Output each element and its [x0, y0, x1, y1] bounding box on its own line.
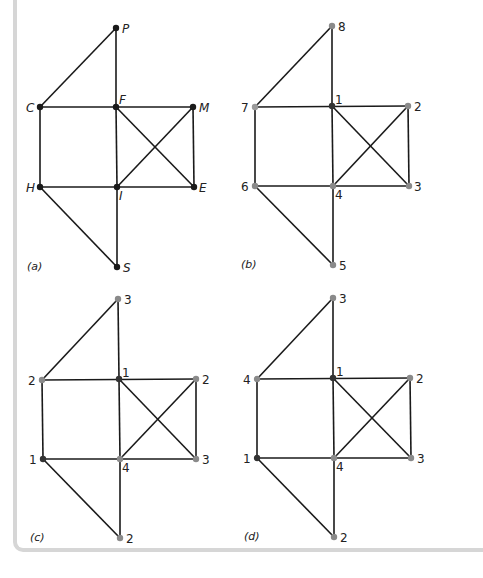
node-label: E	[199, 181, 207, 195]
panel-d: 3 4 1 2 1 4 3 2 (d)	[243, 292, 425, 545]
node-label: 4	[122, 461, 130, 475]
node-label: 1	[122, 366, 130, 380]
node-label: 2	[28, 374, 36, 388]
node-label: I	[119, 189, 123, 203]
node-3	[193, 456, 199, 462]
node-label: 3	[414, 180, 422, 194]
node-label: 6	[241, 180, 249, 194]
node-label: 4	[243, 373, 251, 387]
node-E	[191, 184, 197, 190]
node-7	[252, 104, 258, 110]
node-label: 1	[29, 453, 37, 467]
panel-caption: (b)	[241, 258, 257, 271]
node-label: 4	[336, 460, 344, 474]
panel-caption: (a)	[27, 260, 42, 273]
node-label: 3	[124, 293, 132, 307]
node-label: M	[199, 101, 210, 115]
panel-caption: (c)	[30, 531, 45, 544]
node-1	[254, 455, 260, 461]
node-label: S	[123, 261, 131, 275]
edges	[40, 28, 194, 267]
node-label: 1	[336, 365, 344, 379]
node-2	[193, 376, 199, 382]
panel-b: 8 7 1 2 6 4 3 5 (b)	[241, 20, 422, 273]
node-label: H	[26, 181, 35, 195]
node-M	[190, 104, 196, 110]
node-3	[115, 296, 121, 302]
node-label: C	[26, 101, 35, 115]
node-3	[408, 455, 414, 461]
node-label: 3	[417, 452, 425, 466]
node-label: 2	[126, 532, 134, 546]
node-label: 1	[335, 93, 343, 107]
node-label: 2	[340, 531, 348, 545]
node-label: F	[119, 93, 127, 107]
node-H	[37, 184, 43, 190]
node-2	[39, 377, 45, 383]
node-label: 3	[339, 292, 347, 306]
node-2	[407, 375, 413, 381]
node-2	[117, 535, 123, 541]
node-label: 1	[243, 452, 251, 466]
node-label: P	[122, 22, 130, 36]
node-2	[331, 534, 337, 540]
node-P	[113, 25, 119, 31]
edges	[42, 299, 196, 538]
node-label: 2	[414, 100, 422, 114]
node-label: 2	[416, 372, 424, 386]
node-label: 8	[338, 20, 346, 34]
node-label: 3	[202, 453, 210, 467]
node-4	[254, 376, 260, 382]
node-label: 5	[339, 259, 347, 273]
edges	[257, 298, 411, 537]
panel-caption: (d)	[244, 530, 260, 543]
node-1	[40, 456, 46, 462]
node-label: 2	[202, 373, 210, 387]
node-label: 7	[241, 101, 249, 115]
node-6	[252, 183, 258, 189]
node-2	[405, 103, 411, 109]
node-3	[406, 183, 412, 189]
node-C	[37, 104, 43, 110]
node-label: 4	[335, 188, 343, 202]
panel-a: P C F M H I E S (a)	[26, 22, 210, 275]
node-8	[329, 23, 335, 29]
edges	[255, 26, 409, 265]
node-S	[114, 264, 120, 270]
panel-c: 3 2 1 2 1 4 3 2 (c)	[28, 293, 210, 546]
node-5	[330, 262, 336, 268]
node-3	[330, 295, 336, 301]
